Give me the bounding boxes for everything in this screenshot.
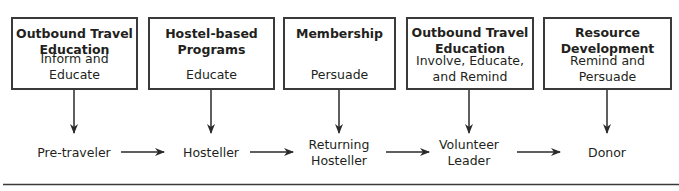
program-action: Involve, Educate, and Remind — [408, 53, 532, 85]
program-title: Hostel-based Programs — [150, 26, 273, 58]
stage-label: Volunteer — [439, 137, 499, 153]
stage-volunteer-leader: Volunteer Leader — [439, 137, 499, 169]
program-title: Membership — [285, 26, 394, 42]
stage-label: Hosteller — [183, 145, 239, 161]
program-box-outbound-travel-education-1: Outbound Travel Education Inform and Edu… — [11, 17, 138, 90]
program-title-line: Resource — [545, 25, 670, 41]
program-title-line: Membership — [285, 26, 394, 42]
stage-donor: Donor — [588, 145, 626, 161]
program-action: Educate — [150, 67, 273, 83]
program-action-line: Educate — [150, 67, 273, 83]
program-title-line: Programs — [150, 42, 273, 58]
stage-label: Hosteller — [309, 153, 370, 169]
stage-label: Pre-traveler — [37, 145, 110, 161]
program-title-line: Outbound Travel — [13, 26, 136, 42]
program-action-line: Persuade — [545, 69, 670, 85]
program-action: Inform and Educate — [13, 51, 136, 83]
stage-label: Donor — [588, 145, 626, 161]
stage-hosteller: Hosteller — [183, 145, 239, 161]
program-title-line: Hostel-based — [150, 26, 273, 42]
program-box-outbound-travel-education-2: Outbound Travel Education Involve, Educa… — [406, 17, 534, 90]
program-action: Persuade — [285, 67, 394, 83]
program-action-line: Involve, Educate, — [408, 53, 532, 69]
stage-label: Returning — [309, 137, 370, 153]
program-action-line: and Remind — [408, 69, 532, 85]
program-action-line: Persuade — [285, 67, 394, 83]
program-action-line: Inform and Educate — [13, 51, 136, 83]
program-action-line: Remind and — [545, 53, 670, 69]
program-title-line: Outbound Travel — [408, 25, 532, 41]
stage-returning-hosteller: Returning Hosteller — [309, 137, 370, 169]
stage-pre-traveler: Pre-traveler — [37, 145, 110, 161]
program-box-hostel-based-programs: Hostel-based Programs Educate — [148, 17, 275, 90]
stage-label: Leader — [439, 153, 499, 169]
program-box-resource-development: Resource Development Remind and Persuade — [543, 17, 672, 90]
program-box-membership: Membership Persuade — [283, 17, 396, 90]
program-action: Remind and Persuade — [545, 53, 670, 85]
